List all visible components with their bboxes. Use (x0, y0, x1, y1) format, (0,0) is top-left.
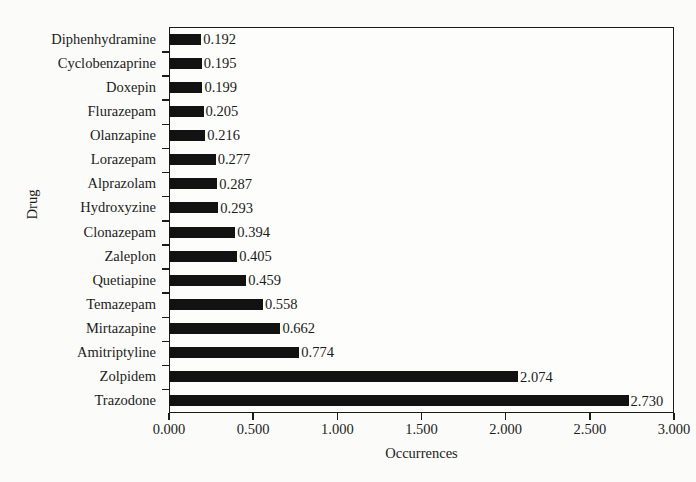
y-axis-tick-label: Lorazepam (0, 148, 163, 172)
bar-row: 0.216 (169, 124, 674, 148)
bar-row: 0.192 (169, 27, 674, 51)
y-axis-tick-label: Diphenhydramine (0, 27, 163, 51)
bar (169, 130, 205, 141)
bar (169, 154, 216, 165)
bar-value-label: 0.774 (301, 345, 334, 360)
y-axis-tick-mark (162, 244, 169, 246)
x-axis-tick-mark (421, 413, 423, 420)
bar-row: 2.074 (169, 365, 674, 389)
y-axis-tick-mark (162, 124, 169, 126)
bar (169, 178, 217, 189)
y-axis-tick-mark (162, 51, 169, 53)
bar-row: 0.205 (169, 99, 674, 123)
x-axis-tick-label: 1.500 (405, 421, 438, 438)
y-axis-tick-mark (162, 389, 169, 391)
bars-layer: 0.1920.1950.1990.2050.2160.2770.2870.293… (169, 27, 674, 413)
bar-row: 0.287 (169, 172, 674, 196)
bar (169, 34, 201, 45)
y-axis-tick-label: Mirtazapine (0, 317, 163, 341)
bar-row: 0.293 (169, 196, 674, 220)
bar (169, 323, 280, 334)
bar-value-label: 0.394 (237, 225, 270, 240)
bar-row: 0.277 (169, 148, 674, 172)
bar-row: 0.405 (169, 244, 674, 268)
bar (169, 58, 202, 69)
y-axis-tick-label: Cyclobenzaprine (0, 51, 163, 75)
y-axis-tick-mark (162, 268, 169, 270)
bar-row: 0.394 (169, 220, 674, 244)
y-axis-tick-label: Olanzapine (0, 124, 163, 148)
y-axis-tick-mark (162, 148, 169, 150)
bar-value-label: 0.216 (207, 128, 240, 143)
x-axis-tick-mark (589, 413, 591, 420)
y-axis-tick-label: Flurazepam (0, 99, 163, 123)
bar (169, 347, 299, 358)
y-axis-tick-label: Temazepam (0, 292, 163, 316)
bar (169, 82, 202, 93)
y-axis-title: Drug (24, 181, 41, 229)
bar-value-label: 0.277 (218, 152, 251, 167)
bar-row: 2.730 (169, 389, 674, 413)
bar-row: 0.195 (169, 51, 674, 75)
bar-value-label: 0.293 (220, 201, 253, 216)
bar-value-label: 2.730 (631, 394, 664, 409)
x-axis-tick-label: 2.000 (489, 421, 522, 438)
bar-value-label: 0.192 (203, 32, 236, 47)
y-axis-tick-label: Doxepin (0, 75, 163, 99)
bar-value-label: 0.405 (239, 249, 272, 264)
bar-value-label: 0.459 (248, 273, 281, 288)
x-axis-tick-label: 0.500 (237, 421, 270, 438)
bar-value-label: 2.074 (520, 370, 553, 385)
bar (169, 299, 263, 310)
bar (169, 202, 218, 213)
y-axis-tick-label: Amitriptyline (0, 341, 163, 365)
y-axis-tick-mark (162, 172, 169, 174)
x-axis-tick-label: 2.500 (574, 421, 607, 438)
y-axis-tick-mark (162, 220, 169, 222)
x-axis-tick-label: 0.000 (153, 421, 186, 438)
bar (169, 395, 629, 406)
bar-row: 0.558 (169, 292, 674, 316)
x-axis-tick-mark (252, 413, 254, 420)
bar-value-label: 0.205 (206, 104, 239, 119)
y-axis-tick-label: Trazodone (0, 389, 163, 413)
bar-row: 0.199 (169, 75, 674, 99)
x-axis-tick-mark (337, 413, 339, 420)
x-axis-tick-mark (505, 413, 507, 420)
bar-value-label: 0.287 (219, 177, 252, 192)
y-axis-tick-mark (162, 365, 169, 367)
y-axis-tick-mark (162, 196, 169, 198)
y-axis-tick-label: Zaleplon (0, 244, 163, 268)
x-axis-tick-label: 3.000 (658, 421, 691, 438)
bar (169, 275, 246, 286)
bar-row: 0.774 (169, 341, 674, 365)
y-axis-tick-mark (162, 75, 169, 77)
bar (169, 251, 237, 262)
y-axis-tick-mark (162, 317, 169, 319)
bar (169, 106, 204, 117)
y-axis-tick-mark (162, 292, 169, 294)
bar-value-label: 0.195 (204, 56, 237, 71)
bar-chart: DiphenhydramineCyclobenzaprineDoxepinFlu… (0, 0, 696, 482)
y-axis-tick-label: Quetiapine (0, 268, 163, 292)
x-axis-tick-mark (168, 413, 170, 420)
x-axis-tick-label: 1.000 (321, 421, 354, 438)
bar-value-label: 0.199 (204, 80, 237, 95)
x-axis-tick-mark (673, 413, 675, 420)
y-axis-tick-label: Zolpidem (0, 365, 163, 389)
bar-value-label: 0.558 (265, 297, 298, 312)
bar (169, 371, 518, 382)
y-axis-tick-mark (162, 341, 169, 343)
x-axis-title: Occurrences (169, 445, 674, 462)
bar-row: 0.459 (169, 268, 674, 292)
y-axis-tick-mark (162, 99, 169, 101)
bar (169, 227, 235, 238)
bar-value-label: 0.662 (282, 321, 315, 336)
bar-row: 0.662 (169, 317, 674, 341)
